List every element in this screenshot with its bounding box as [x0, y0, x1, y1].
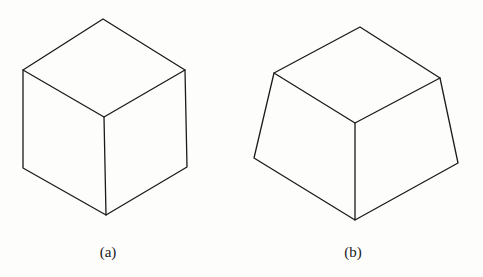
- shape-b-top-face: [274, 27, 440, 123]
- shape-b-right-face: [355, 78, 458, 220]
- figure-label-a: (a): [100, 244, 117, 261]
- cube-a: [23, 19, 187, 215]
- shape-b-left-face: [254, 73, 355, 220]
- cube-a-left-face: [23, 70, 106, 215]
- shape-b: [254, 27, 458, 220]
- figure-canvas: [0, 0, 483, 277]
- figure-label-b: (b): [344, 244, 362, 261]
- cube-a-top-face: [23, 19, 185, 117]
